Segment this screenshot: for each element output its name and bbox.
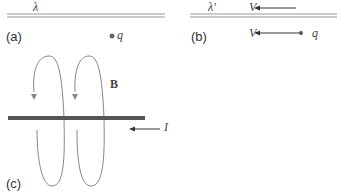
- lambda-label: λ: [33, 0, 38, 15]
- current-wire: [8, 116, 145, 120]
- charge-velocity-arrow: [254, 31, 300, 36]
- field-label: B: [110, 77, 118, 92]
- panel-b-label: (b): [191, 29, 207, 44]
- charge-dot-a: [110, 34, 115, 39]
- field-loop-right: [75, 56, 104, 186]
- charge-dot-b: [299, 31, 303, 35]
- lambda-prime-label: λ′: [208, 0, 216, 15]
- current-arrow: [129, 127, 160, 132]
- diagram-graphics: [0, 0, 341, 195]
- line-velocity-label: V: [249, 0, 256, 15]
- line-charge-a: [7, 14, 165, 17]
- line-velocity-arrow: [254, 6, 296, 11]
- loop-arrow-right: [72, 94, 78, 100]
- panel-a-label: (a): [6, 29, 22, 44]
- panel-c-label: (c): [6, 176, 21, 191]
- loop-arrow-left: [31, 94, 37, 100]
- charge-label-a: q: [117, 28, 123, 43]
- charge-label-b: q: [312, 26, 318, 41]
- field-loop-left: [34, 56, 65, 186]
- charge-velocity-label: V: [249, 26, 256, 41]
- current-label: I: [164, 120, 168, 135]
